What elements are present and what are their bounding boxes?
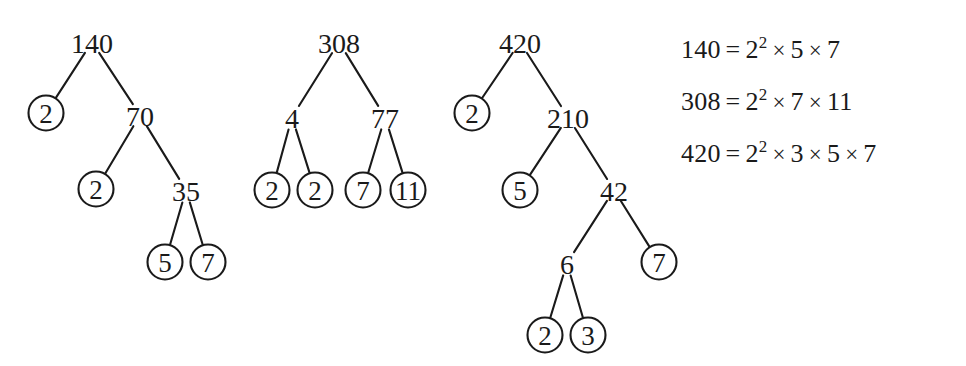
composite-number-node: 77 — [371, 103, 399, 134]
node-label: 308 — [318, 28, 360, 59]
composite-number-node: 4 — [285, 103, 299, 134]
node-label: 5 — [513, 176, 527, 206]
node-label: 140 — [71, 28, 113, 59]
node-label: 35 — [172, 176, 200, 207]
tree-edge — [389, 129, 403, 173]
equals-sign: = — [721, 87, 746, 116]
multiplication-sign: × — [767, 38, 790, 63]
node-label: 4 — [285, 103, 299, 134]
node-label: 2 — [89, 175, 103, 205]
tree-edge — [482, 53, 513, 99]
tree-edge — [299, 53, 332, 106]
factor-base: 5 — [827, 139, 840, 168]
composite-number-node: 6 — [560, 249, 574, 280]
node-label: 2 — [465, 99, 479, 129]
node-label: 70 — [126, 101, 154, 132]
node-label: 7 — [356, 176, 370, 206]
multiplication-sign: × — [767, 142, 790, 167]
tree-edge — [527, 53, 561, 106]
factor-term: 5 — [791, 35, 804, 64]
equation-140: 140=22×5×7 — [681, 24, 966, 76]
equation-308: 308=22×7×11 — [681, 76, 966, 128]
prime-factor-node: 5 — [503, 173, 538, 208]
tree-edge — [346, 53, 378, 106]
equals-sign: = — [721, 139, 746, 168]
node-label: 7 — [652, 248, 666, 278]
prime-factor-node: 2 — [255, 173, 290, 208]
equation-lhs: 140 — [681, 35, 721, 64]
node-label: 420 — [499, 28, 541, 59]
factor-term: 22 — [745, 139, 767, 168]
node-label: 6 — [560, 249, 574, 280]
factor-base: 11 — [827, 87, 852, 116]
tree-edge — [56, 53, 85, 98]
composite-number-node: 420 — [499, 28, 541, 59]
tree-edge — [574, 201, 607, 252]
factor-base: 2 — [745, 35, 758, 64]
tree-edge — [170, 202, 182, 245]
prime-factor-node: 7 — [642, 245, 677, 280]
factor-term: 7 — [827, 35, 840, 64]
equation-lhs: 308 — [681, 87, 721, 116]
tree-edge — [368, 129, 381, 173]
tree-edges — [56, 53, 203, 245]
prime-factor-node: 2 — [298, 173, 333, 208]
factor-term: 7 — [863, 139, 876, 168]
composite-number-node: 70 — [126, 101, 154, 132]
prime-factor-node: 2 — [79, 172, 114, 207]
equals-sign: = — [721, 35, 746, 64]
tree-edge — [575, 128, 607, 179]
composite-number-node: 42 — [600, 176, 628, 207]
tree-edge — [190, 202, 203, 245]
factor-base: 7 — [827, 35, 840, 64]
factor-base: 2 — [745, 87, 758, 116]
factor-base: 5 — [791, 35, 804, 64]
tree-edge — [571, 275, 583, 318]
factor-tree-420: 42022105426723 — [455, 28, 677, 353]
node-label: 2 — [308, 176, 322, 206]
multiplication-sign: × — [804, 90, 827, 115]
factor-tree-figure: 140270235573084772271142022105426723 140… — [0, 0, 966, 366]
factor-base: 7 — [863, 139, 876, 168]
factorization-equations-list: 140=22×5×7308=22×7×11420=22×3×5×7 — [681, 24, 966, 180]
node-label: 210 — [547, 103, 589, 134]
node-label: 5 — [158, 248, 172, 278]
multiplication-sign: × — [804, 142, 827, 167]
factor-term: 11 — [827, 87, 852, 116]
factor-base: 7 — [791, 87, 804, 116]
node-label: 42 — [600, 176, 628, 207]
composite-number-node: 35 — [172, 176, 200, 207]
prime-factor-node: 2 — [455, 96, 490, 131]
multiplication-sign: × — [840, 142, 863, 167]
tree-edge — [147, 126, 179, 179]
node-label: 3 — [581, 321, 595, 351]
factor-term: 3 — [791, 139, 804, 168]
tree-edge — [621, 201, 650, 247]
factor-tree-308: 30847722711 — [255, 28, 426, 208]
factor-term: 22 — [745, 87, 767, 116]
tree-edge — [550, 275, 563, 318]
factor-tree-140: 14027023557 — [29, 28, 226, 280]
composite-number-node: 210 — [547, 103, 589, 134]
tree-edge — [99, 53, 133, 104]
composite-number-node: 140 — [71, 28, 113, 59]
node-label: 77 — [371, 103, 399, 134]
node-label: 7 — [201, 248, 215, 278]
tree-edge — [530, 128, 561, 176]
factor-term: 5 — [827, 139, 840, 168]
factor-term: 22 — [745, 35, 767, 64]
equation-420: 420=22×3×5×7 — [681, 128, 966, 180]
prime-factor-node: 7 — [191, 245, 226, 280]
tree-edge — [296, 129, 310, 173]
factor-base: 2 — [745, 139, 758, 168]
prime-factor-node: 5 — [148, 245, 183, 280]
tree-edge — [105, 126, 133, 174]
multiplication-sign: × — [767, 90, 790, 115]
equation-lhs: 420 — [681, 139, 721, 168]
node-label: 2 — [538, 321, 552, 351]
prime-factor-node: 2 — [29, 96, 64, 131]
prime-factor-node: 11 — [391, 173, 426, 208]
prime-factor-node: 7 — [346, 173, 381, 208]
prime-factor-node: 2 — [528, 318, 563, 353]
multiplication-sign: × — [804, 38, 827, 63]
